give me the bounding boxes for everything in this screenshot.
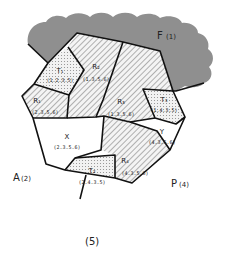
svg-text:R₂: R₂ <box>92 63 100 71</box>
svg-text:T₂: T₂ <box>87 167 95 175</box>
svg-text:P: P <box>171 178 177 189</box>
svg-text:F: F <box>157 30 163 41</box>
outer-label-p: P (4) <box>171 178 189 189</box>
svg-text:(2): (2) <box>21 175 31 183</box>
svg-text:X: X <box>65 133 70 141</box>
svg-text:A: A <box>13 172 20 183</box>
svg-text:(4.3.5.6): (4.3.5.6) <box>148 139 175 145</box>
svg-text:(1.3.5.6): (1.3.5.6) <box>82 76 109 82</box>
svg-text:(2.4.3.5): (2.4.3.5) <box>78 179 105 185</box>
svg-text:(4.3.5.6): (4.3.5.6) <box>121 170 148 176</box>
svg-text:R₁: R₁ <box>33 97 41 105</box>
outer-label-5: (5) <box>85 236 99 247</box>
svg-text:(1): (1) <box>166 33 176 41</box>
svg-text:T₁: T₁ <box>55 67 63 75</box>
svg-text:(1.3.5.6): (1.3.5.6) <box>107 111 134 117</box>
svg-text:(2.3.5.6): (2.3.5.6) <box>31 109 58 115</box>
svg-text:(1.4.3.5): (1.4.3.5) <box>150 107 177 113</box>
svg-text:(1.2.3.5): (1.2.3.5) <box>46 77 73 83</box>
svg-text:Y: Y <box>159 128 165 136</box>
svg-text:R₃: R₃ <box>117 98 125 106</box>
outer-label-a: A (2) <box>13 172 31 183</box>
region-adjacency-diagram: T₁ (1.2.3.5) R₂ (1.3.5.6) R₁ (2.3.5.6) R… <box>0 0 231 259</box>
svg-text:R₄: R₄ <box>121 157 129 165</box>
svg-text:(2.3.5.6): (2.3.5.6) <box>53 144 80 150</box>
svg-text:(4): (4) <box>179 181 189 189</box>
svg-text:T₃: T₃ <box>159 96 167 104</box>
